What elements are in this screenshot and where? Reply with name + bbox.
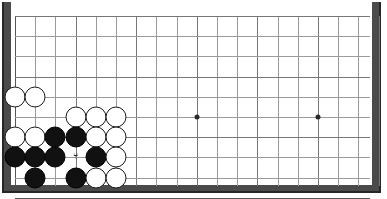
board-markers: ⑂ (0, 0, 387, 199)
go-board[interactable]: ⑂ (0, 0, 387, 199)
last-move-marker: ⑂ (73, 152, 78, 161)
